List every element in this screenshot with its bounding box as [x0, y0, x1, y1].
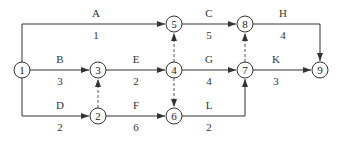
node-8: 8	[237, 16, 253, 32]
activity-h-name: H	[279, 7, 287, 19]
activity-c-name: C	[205, 7, 212, 19]
activity-b-duration: 3	[57, 75, 63, 87]
node-6-label: 6	[171, 110, 177, 122]
node-8-label: 8	[242, 18, 248, 30]
activity-f-name: F	[133, 99, 139, 111]
node-1-label: 1	[19, 64, 25, 76]
node-2-label: 2	[95, 110, 101, 122]
node-3: 3	[90, 62, 106, 78]
activity-f-duration: 6	[133, 121, 139, 133]
activity-h-arrow	[253, 24, 320, 61]
node-7: 7	[237, 62, 253, 78]
node-5: 5	[166, 16, 182, 32]
activity-a-duration: 1	[93, 29, 99, 41]
activity-l-duration: 2	[206, 121, 212, 133]
activity-b-name: B	[56, 53, 63, 65]
activity-c-duration: 5	[206, 29, 212, 41]
network-diagram: A 1 B 3 C 5 D 2 E 2 F 6 G 4 H 4 K 3 L 2 …	[0, 0, 342, 141]
node-4-label: 4	[171, 64, 177, 76]
activity-e-name: E	[133, 53, 140, 65]
node-6: 6	[166, 108, 182, 124]
activity-l-name: L	[206, 99, 213, 111]
node-5-label: 5	[171, 18, 177, 30]
node-4: 4	[166, 62, 182, 78]
activity-e-duration: 2	[133, 75, 139, 87]
activity-d-duration: 2	[57, 121, 63, 133]
node-2: 2	[90, 108, 106, 124]
activity-k-name: K	[272, 53, 280, 65]
node-1: 1	[14, 62, 30, 78]
activity-a-name: A	[92, 7, 100, 19]
node-9-label: 9	[317, 64, 323, 76]
activity-k-duration: 3	[273, 75, 279, 87]
diagram-svg: A 1 B 3 C 5 D 2 E 2 F 6 G 4 H 4 K 3 L 2 …	[0, 0, 342, 141]
activity-g-duration: 4	[206, 75, 212, 87]
activity-l-arrow	[182, 79, 245, 116]
node-3-label: 3	[95, 64, 101, 76]
activity-g-name: G	[205, 53, 213, 65]
node-9: 9	[312, 62, 328, 78]
node-7-label: 7	[242, 64, 248, 76]
activity-h-duration: 4	[280, 29, 286, 41]
activity-d-name: D	[56, 99, 64, 111]
